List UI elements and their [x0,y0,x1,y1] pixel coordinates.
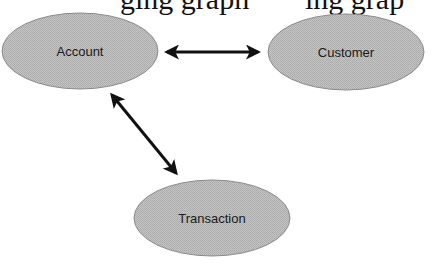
er-diagram: Account Customer Transaction [0,0,436,268]
node-label-account: Account [57,44,104,59]
node-label-transaction: Transaction [178,211,245,226]
node-transaction: Transaction [134,180,290,256]
node-customer: Customer [268,14,424,90]
edge-account-transaction-arrow [112,95,176,173]
node-label-customer: Customer [318,45,375,60]
node-account: Account [2,13,158,89]
